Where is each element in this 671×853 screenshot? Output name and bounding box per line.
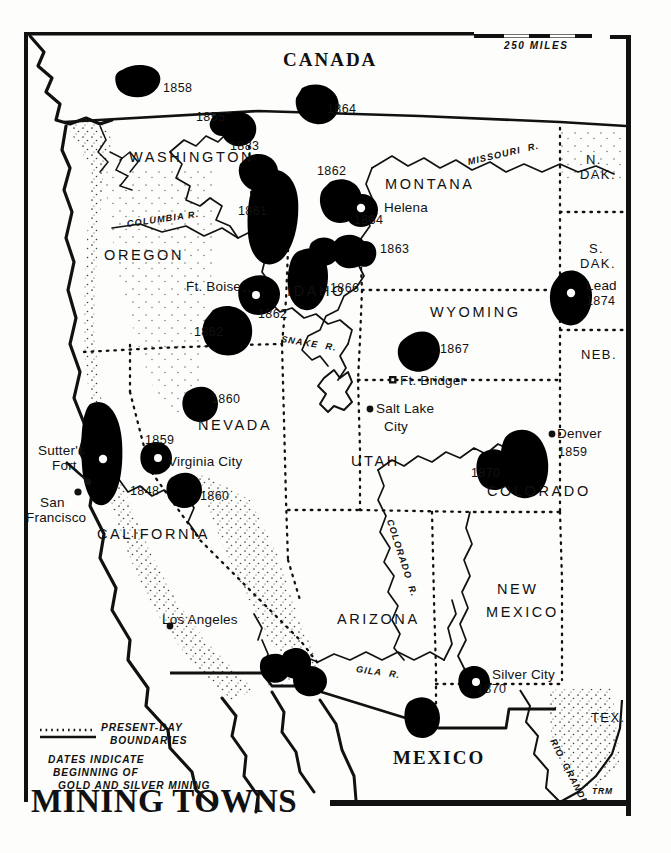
state-label-utah: UTAH <box>351 454 400 469</box>
ore-date-label: 1864 <box>354 214 383 227</box>
scale-bar <box>474 34 592 38</box>
state-label-wyoming: WYOMING <box>430 305 521 320</box>
ore-date-label: 1861 <box>238 205 267 218</box>
ore-date-label: 1883 <box>230 140 259 153</box>
ore-date-label: 1862 <box>317 165 346 178</box>
state-label-south-dakota-line2: DAK. <box>580 257 616 270</box>
state-label-montana: MONTANA <box>385 177 475 192</box>
legend-note-line2: BEGINNING OF <box>53 767 139 779</box>
ore-date-label: 1870 <box>477 683 506 696</box>
ore-date-label: 1864 <box>327 103 356 116</box>
ore-date-label: 1859 <box>145 434 174 447</box>
ore-date-label: 1855 <box>196 111 225 124</box>
city-label-los-angeles: Los Angeles <box>162 613 238 627</box>
city-label-salt-lake-city-line2: City <box>384 420 408 434</box>
ore-date-label: 1862 <box>258 308 287 321</box>
state-label-arizona: ARIZONA <box>337 612 420 627</box>
city-label-ft-boise: Ft. Boise <box>186 280 241 294</box>
legend-boundaries-line2: BOUNDARIES <box>110 735 188 747</box>
ore-date-label: 1859 <box>558 446 587 459</box>
state-label-colorado: COLORADO <box>487 484 591 499</box>
artist-signature: TRM <box>592 787 613 796</box>
scale-bar-label: 250 MILES <box>504 41 568 51</box>
city-label-virginia-city: Virginia City <box>168 455 242 469</box>
state-label-north-dakota-line2: DAK. <box>580 168 616 181</box>
ore-date-label: 1860 <box>211 393 240 406</box>
city-label-ft-bridger: Ft. Bridger <box>400 374 465 388</box>
mining-towns-map-figure: CANADA MEXICO WASHINGTON OREGON IDAHO MO… <box>0 0 671 853</box>
ore-date-label: 1874 <box>586 295 615 308</box>
city-label-salt-lake-city-line1: Salt Lake <box>376 402 434 416</box>
state-label-nevada: NEVADA <box>198 418 272 433</box>
ore-date-label: 1866 <box>330 282 359 295</box>
country-label-canada: CANADA <box>283 50 377 69</box>
ft-bridger-symbol <box>389 376 397 384</box>
ore-date-label: 1858 <box>163 82 192 95</box>
dot-denver <box>549 431 556 438</box>
city-label-lead: Lead <box>586 279 617 293</box>
state-label-new-mexico-line2: MEXICO <box>486 605 559 620</box>
ore-date-label: 1863 <box>380 243 409 256</box>
dot-salt-lake-city <box>367 406 374 413</box>
dot-san-francisco <box>74 488 81 495</box>
city-label-san-francisco-line1: San <box>40 496 65 510</box>
state-label-texas: TEX. <box>591 711 626 724</box>
state-label-south-dakota-line1: S. <box>589 242 604 255</box>
map-title: MINING TOWNS <box>31 785 297 819</box>
legend-sample-lines <box>40 730 96 737</box>
country-label-mexico: MEXICO <box>393 748 485 767</box>
ore-date-label: 1862 <box>194 326 223 339</box>
legend-note-line1: DATES INDICATE <box>48 754 145 766</box>
state-label-oregon: OREGON <box>104 248 184 263</box>
city-label-sutters-fort-line2: Fort <box>52 459 77 473</box>
legend-boundaries-line1: PRESENT-DAY <box>101 722 183 734</box>
state-label-north-dakota-line1: N. <box>586 153 602 166</box>
city-label-denver: Denver <box>557 427 602 441</box>
city-label-helena: Helena <box>384 201 428 215</box>
city-label-silver-city: Silver City <box>492 668 555 682</box>
state-label-new-mexico-line1: NEW <box>497 582 539 597</box>
ore-date-label: 1867 <box>440 343 469 356</box>
ore-date-label: 1870 <box>471 467 500 480</box>
ore-date-label: 1860 <box>200 490 229 503</box>
city-label-san-francisco-line2: Francisco <box>26 511 86 525</box>
city-label-sutters-fort-line1: Sutter's <box>38 444 85 458</box>
state-label-nebraska: NEB. <box>581 348 617 361</box>
ore-date-label: 1848 <box>130 485 159 498</box>
state-label-california: CALIFORNIA <box>97 527 210 542</box>
